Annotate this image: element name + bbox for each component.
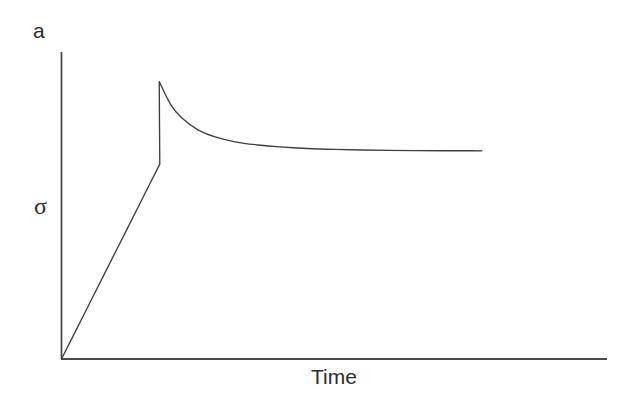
stress-time-figure: a σ Time	[0, 0, 620, 412]
panel-label: a	[33, 20, 45, 41]
plot-canvas	[0, 0, 620, 412]
y-axis-label: σ	[34, 194, 47, 218]
x-axis-label: Time	[61, 366, 607, 387]
stress-time-curve	[62, 82, 482, 359]
